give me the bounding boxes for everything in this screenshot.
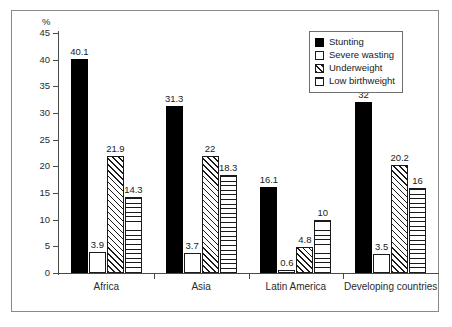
y-tick-label: 40	[12, 55, 50, 65]
y-tick-label: 35	[12, 81, 50, 91]
y-tick-mark	[53, 113, 58, 114]
x-axis-label: Asia	[154, 282, 249, 292]
bar-value-label: 16.1	[254, 175, 283, 185]
legend-swatch-icon	[315, 77, 324, 86]
bar-value-label: 40.1	[65, 47, 94, 57]
legend-item: Severe wasting	[315, 49, 395, 61]
y-tick-mark	[53, 140, 58, 141]
x-axis-label: Africa	[59, 282, 154, 292]
x-tick-mark	[154, 274, 155, 279]
chart-figure: % 051015202530354045 40.13.921.914.331.3…	[11, 10, 439, 312]
y-tick-label: 30	[12, 108, 50, 118]
legend-item: Low birthweight	[315, 75, 395, 87]
bar-low-birthweight	[220, 175, 237, 273]
legend-item-label: Stunting	[329, 37, 364, 47]
bar-underweight	[202, 156, 219, 273]
bar-low-birthweight	[125, 197, 142, 273]
bar-value-label: 16	[403, 176, 432, 186]
bar-low-birthweight	[409, 188, 426, 273]
legend-swatch-icon	[315, 38, 324, 47]
bar-value-label: 14.3	[119, 185, 148, 195]
bar-value-label: 21.9	[101, 144, 130, 154]
y-tick-mark	[53, 166, 58, 167]
y-tick-mark	[53, 273, 58, 274]
bar-value-label: 22	[196, 144, 225, 154]
y-tick-label: 10	[12, 215, 50, 225]
y-tick-label: 15	[12, 188, 50, 198]
y-tick-mark	[53, 33, 58, 34]
x-axis-label: Developing countries	[343, 282, 438, 292]
legend-item: Stunting	[315, 36, 395, 48]
bar-value-label: 18.3	[214, 163, 243, 173]
y-axis-unit-label: %	[42, 17, 50, 27]
y-tick-label: 20	[12, 161, 50, 171]
chart-legend: StuntingSevere wastingUnderweightLow bir…	[309, 31, 403, 93]
legend-item-label: Low birthweight	[329, 76, 395, 86]
y-tick-label: 45	[12, 28, 50, 38]
y-tick-mark	[53, 220, 58, 221]
x-tick-mark	[343, 274, 344, 279]
x-tick-mark	[249, 274, 250, 279]
y-tick-label: 25	[12, 135, 50, 145]
y-tick-mark	[53, 246, 58, 247]
bar-value-label: 31.3	[160, 94, 189, 104]
bar-underweight	[296, 247, 313, 273]
bar-underweight	[107, 156, 124, 273]
bar-severe-wasting	[89, 252, 106, 273]
legend-item-label: Underweight	[329, 63, 382, 73]
y-tick-mark	[53, 60, 58, 61]
legend-swatch-icon	[315, 51, 324, 60]
y-tick-mark	[53, 193, 58, 194]
y-tick-label: 5	[12, 241, 50, 251]
legend-item: Underweight	[315, 62, 395, 74]
bar-severe-wasting	[278, 270, 295, 273]
y-tick-label: 0	[12, 268, 50, 278]
bar-low-birthweight	[314, 220, 331, 273]
legend-item-label: Severe wasting	[329, 50, 394, 60]
bar-value-label: 10	[308, 208, 337, 218]
bar-severe-wasting	[373, 254, 390, 273]
bar-value-label: 20.2	[385, 153, 414, 163]
legend-swatch-icon	[315, 64, 324, 73]
bar-severe-wasting	[184, 253, 201, 273]
y-tick-mark	[53, 86, 58, 87]
x-axis-label: Latin America	[249, 282, 344, 292]
